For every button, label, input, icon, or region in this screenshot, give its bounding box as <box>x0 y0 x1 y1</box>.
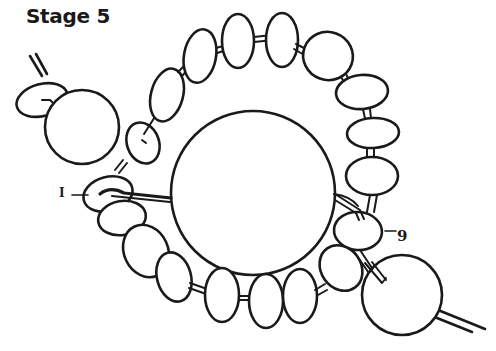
rondelle-bead-16 <box>283 269 317 323</box>
rondelle-bead-9 <box>346 157 398 195</box>
bead-diagram <box>0 0 496 351</box>
label-bead-9: 9 <box>397 227 407 245</box>
top-left-large-bead <box>45 90 119 164</box>
bottom-right-large-bead <box>362 255 442 335</box>
center-large-bead <box>171 111 335 275</box>
label-start-marker: I <box>59 186 65 200</box>
rondelle-bead-5 <box>266 13 298 67</box>
rondelle-bead-14 <box>205 268 239 322</box>
rondelle-bead-3 <box>180 27 221 86</box>
rondelle-bead-4 <box>222 14 254 68</box>
rondelle-bead-1 <box>121 118 165 168</box>
thread-tail-bottom-right <box>437 310 485 332</box>
rondelle-bead-8 <box>346 117 399 150</box>
rondelle-bead-15 <box>249 274 283 328</box>
